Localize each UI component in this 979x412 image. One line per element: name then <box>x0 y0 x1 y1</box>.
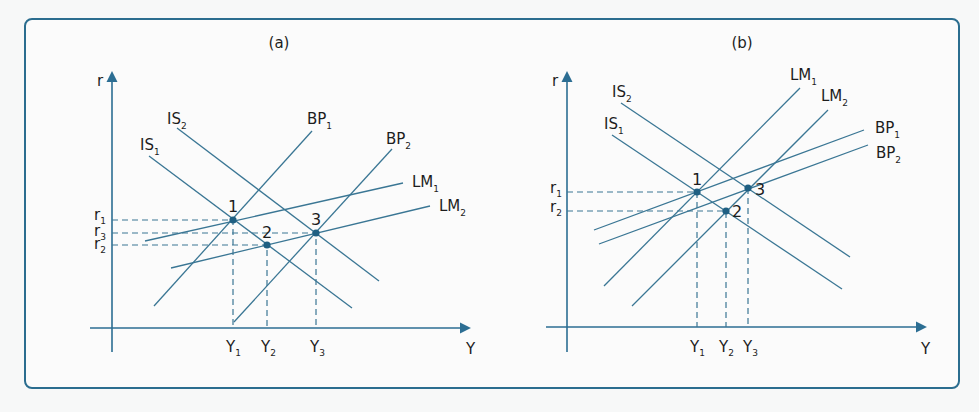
panel-b-is2-label: IS2 <box>612 83 632 104</box>
panel-b-r2-tick: r2 <box>550 198 562 218</box>
panel-b-lm2-label: LM2 <box>821 87 848 108</box>
panel-b-lm1-label: LM1 <box>790 66 817 87</box>
panel-a-y1-tick: Y1 <box>225 338 241 358</box>
panel-a-lm2-curve <box>171 206 430 268</box>
panel-a-bp1-label: BP1 <box>307 110 332 131</box>
panel-b-title: (b) <box>731 34 752 52</box>
panel-b-point-1-label: 1 <box>692 170 702 189</box>
panel-b-equilibrium-point-2 <box>722 207 729 214</box>
is-lm-bp-diagram: (a) r Y IS2 IS1 BP1 BP2 LM1 LM2 r1 r3 r2… <box>0 0 979 412</box>
panel-a-is2-label: IS2 <box>167 110 187 131</box>
panel-b-bp1-curve <box>594 130 864 230</box>
panel-a-point-2-label: 2 <box>262 223 272 242</box>
panel-a-bp2-label: BP2 <box>386 130 411 151</box>
panel-b-guide-point-2 <box>567 211 726 327</box>
panel-a-equilibrium-point-2 <box>263 241 270 248</box>
panel-b-y-axis-label: Y <box>920 340 931 358</box>
panel-a-y-axis-label: Y <box>465 340 476 358</box>
panel-b-point-3-label: 3 <box>755 180 765 199</box>
panel-b-lm2-curve <box>632 110 828 306</box>
panel-b-r-axis-label: r <box>552 72 559 90</box>
panel-a-guide-point-2 <box>112 245 267 328</box>
panel-a-guide-point-3 <box>112 233 316 328</box>
panel-a-point-1-label: 1 <box>228 197 238 216</box>
panel-a-is1-label: IS1 <box>140 136 160 157</box>
panel-b: (b) r Y IS2 IS1 LM1 LM2 BP1 BP2 r1 r2 Y1… <box>546 34 931 358</box>
panel-a-title: (a) <box>269 34 290 52</box>
panel-b-bp2-curve <box>599 145 868 244</box>
panel-b-equilibrium-point-1 <box>693 188 700 195</box>
panel-a-lm2-label: LM2 <box>439 197 466 218</box>
panel-a-is2-curve <box>177 128 379 281</box>
panel-b-point-2-label: 2 <box>732 202 742 221</box>
panel-b-y3-tick: Y3 <box>742 338 758 358</box>
panel-b-y1-tick: Y1 <box>689 338 705 358</box>
panel-b-r1-tick: r1 <box>550 179 562 199</box>
panel-a-lm1-curve <box>145 183 403 241</box>
panel-b-bp2-label: BP2 <box>876 144 901 165</box>
panel-a-r-axis-label: r <box>97 72 104 90</box>
panel-a-y2-tick: Y2 <box>260 338 276 358</box>
panel-a-bp2-curve <box>234 149 392 322</box>
panel-a-equilibrium-point-3 <box>312 229 319 236</box>
panel-a-point-3-label: 3 <box>311 210 321 229</box>
panel-a: (a) r Y IS2 IS1 BP1 BP2 LM1 LM2 r1 r3 r2… <box>90 34 476 358</box>
panel-b-y2-tick: Y2 <box>718 338 734 358</box>
panel-a-equilibrium-point-1 <box>229 216 236 223</box>
panel-a-y3-tick: Y3 <box>309 338 325 358</box>
panel-b-is1-label: IS1 <box>604 115 624 136</box>
panel-b-equilibrium-point-3 <box>744 184 751 191</box>
panel-b-bp1-label: BP1 <box>875 119 900 140</box>
panel-a-guide-point-1 <box>112 220 233 328</box>
panel-a-lm1-label: LM1 <box>412 173 439 194</box>
